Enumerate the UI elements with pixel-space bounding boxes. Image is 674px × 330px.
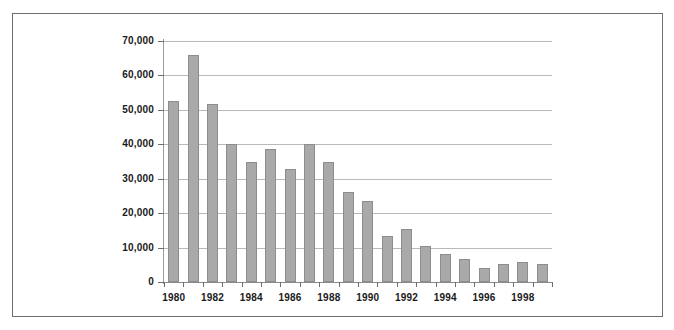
bar[interactable] bbox=[498, 264, 509, 282]
bar[interactable] bbox=[188, 55, 199, 282]
x-tick bbox=[552, 282, 553, 287]
y-axis-label: 0 bbox=[74, 277, 154, 287]
bar[interactable] bbox=[323, 162, 334, 282]
y-axis-label: 70,000 bbox=[74, 36, 154, 46]
y-axis-label-wrap: 30,000 bbox=[66, 174, 154, 184]
bar-series bbox=[164, 41, 552, 282]
x-tick bbox=[513, 282, 514, 287]
bar[interactable] bbox=[362, 201, 373, 282]
y-axis-label: 40,000 bbox=[74, 139, 154, 149]
x-tick bbox=[377, 282, 378, 287]
x-axis-label: 1998 bbox=[498, 292, 548, 303]
bar[interactable] bbox=[420, 246, 431, 282]
x-tick bbox=[474, 282, 475, 287]
x-tick bbox=[242, 282, 243, 287]
x-tick bbox=[455, 282, 456, 287]
x-tick bbox=[339, 282, 340, 287]
bar[interactable] bbox=[440, 254, 451, 282]
bar[interactable] bbox=[285, 169, 296, 282]
bar[interactable] bbox=[226, 144, 237, 282]
y-axis-label: 50,000 bbox=[74, 105, 154, 115]
y-axis-label-wrap: 0 bbox=[66, 277, 154, 287]
x-tick bbox=[319, 282, 320, 287]
bar[interactable] bbox=[343, 192, 354, 282]
bar[interactable] bbox=[246, 162, 257, 283]
x-tick bbox=[222, 282, 223, 287]
y-axis-label-wrap: 50,000 bbox=[66, 105, 154, 115]
bar[interactable] bbox=[459, 259, 470, 282]
x-tick bbox=[533, 282, 534, 287]
x-tick bbox=[203, 282, 204, 287]
bar[interactable] bbox=[382, 236, 393, 282]
bar[interactable] bbox=[304, 144, 315, 282]
x-tick bbox=[261, 282, 262, 287]
y-axis-label-wrap: 40,000 bbox=[66, 139, 154, 149]
x-tick bbox=[436, 282, 437, 287]
bar[interactable] bbox=[265, 149, 276, 282]
y-axis-label-wrap: 70,000 bbox=[66, 36, 154, 46]
y-axis-label-wrap: 10,000 bbox=[66, 243, 154, 253]
y-axis-label-wrap: 20,000 bbox=[66, 208, 154, 218]
plot-area bbox=[164, 41, 552, 282]
bar[interactable] bbox=[207, 104, 218, 282]
bar[interactable] bbox=[479, 268, 490, 282]
bar[interactable] bbox=[401, 229, 412, 282]
chart-frame: 010,00020,00030,00040,00050,00060,00070,… bbox=[12, 13, 663, 317]
bar[interactable] bbox=[168, 101, 179, 282]
y-axis-label: 60,000 bbox=[74, 70, 154, 80]
y-axis-label: 20,000 bbox=[74, 208, 154, 218]
x-tick bbox=[164, 282, 165, 287]
y-axis-label: 10,000 bbox=[74, 243, 154, 253]
x-tick bbox=[300, 282, 301, 287]
y-axis-label: 30,000 bbox=[74, 174, 154, 184]
x-tick bbox=[494, 282, 495, 287]
x-tick bbox=[280, 282, 281, 287]
bar[interactable] bbox=[537, 264, 548, 282]
x-tick bbox=[397, 282, 398, 287]
bar[interactable] bbox=[517, 262, 528, 282]
x-tick bbox=[416, 282, 417, 287]
x-tick bbox=[358, 282, 359, 287]
x-tick bbox=[183, 282, 184, 287]
y-axis-label-wrap: 60,000 bbox=[66, 70, 154, 80]
